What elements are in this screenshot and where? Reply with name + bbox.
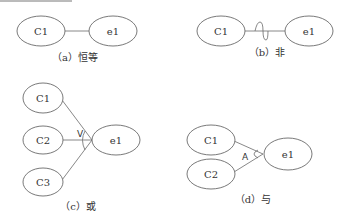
- caption-and: （d）与: [235, 194, 271, 205]
- caption-not: （b）非: [249, 47, 285, 58]
- cause-effect-diagram: C1 e1 （a）恒等 C1 e1 （b）非 V C1 C2 C3 e1 （c）…: [0, 0, 342, 224]
- cause-label-c1: C1: [204, 135, 218, 146]
- cause-label-c1: C1: [214, 26, 228, 37]
- edge-c2-join: [234, 154, 263, 172]
- effect-label-e1: e1: [282, 149, 294, 160]
- effect-label-e1: e1: [110, 135, 122, 146]
- edge-c1-join: [234, 141, 263, 154]
- and-symbol: A: [242, 152, 249, 162]
- caption-or: （c）或: [60, 201, 96, 212]
- cause-label-c1: C1: [34, 26, 48, 37]
- cause-label-c2: C2: [204, 169, 218, 180]
- panel-and: A C1 C2 e1 （d）与: [187, 125, 312, 205]
- caption-identity: （a）恒等: [52, 51, 98, 63]
- panel-not: C1 e1 （b）非: [197, 16, 333, 58]
- cause-label-c3: C3: [36, 177, 50, 188]
- cause-label-c1: C1: [36, 93, 50, 104]
- effect-label-e1: e1: [303, 26, 315, 37]
- or-symbol: V: [77, 129, 84, 139]
- panel-or: V C1 C2 C3 e1 （c）或: [23, 83, 140, 212]
- effect-label-e1: e1: [107, 26, 119, 37]
- cause-label-c2: C2: [36, 135, 50, 146]
- panel-identity: C1 e1 （a）恒等: [17, 16, 137, 63]
- edge-c3-join: [62, 140, 92, 180]
